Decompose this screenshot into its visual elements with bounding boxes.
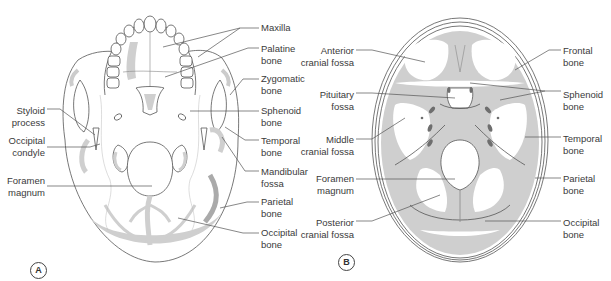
label-line: Occipital <box>9 135 45 147</box>
label-line: Pituitary <box>320 89 354 101</box>
label-line: bone <box>261 117 301 129</box>
label-posterior-fossa: Posteriorcranial fossa <box>301 217 354 240</box>
label-line: Foramen <box>7 175 45 187</box>
label-line: Mandibular <box>261 166 308 178</box>
label-pituitary: Pituitaryfossa <box>320 89 354 112</box>
label-line: Parietal <box>563 173 595 185</box>
label-parietal-b: Parietalbone <box>563 173 595 196</box>
label-frontal: Frontalbone <box>563 45 593 68</box>
label-line: Temporal <box>563 133 602 145</box>
label-line: bone <box>261 239 297 251</box>
label-temporal-b: Temporalbone <box>563 133 602 156</box>
panel-b-badge: B <box>338 254 355 271</box>
label-line: bone <box>261 208 293 220</box>
label-line: condyle <box>9 147 45 159</box>
label-line: Sphenoid <box>563 89 603 101</box>
label-foramen-b: Foramenmagnum <box>316 173 354 196</box>
panel-b-skull <box>372 18 548 262</box>
label-line: bone <box>261 55 295 67</box>
label-line: cranial fossa <box>301 146 354 158</box>
label-line: Occipital <box>563 217 599 229</box>
label-line: bone <box>261 147 300 159</box>
label-temporal: Temporalbone <box>261 135 300 158</box>
label-anterior-fossa: Anteriorcranial fossa <box>301 45 354 68</box>
label-line: Posterior <box>301 217 354 229</box>
label-occipital-b: Occipitalbone <box>563 217 599 240</box>
label-zygomatic: Zygomaticbone <box>261 73 305 96</box>
label-middle-fossa: Middlecranial fossa <box>301 134 354 157</box>
label-occipital: Occipitalbone <box>261 227 297 250</box>
label-line: cranial fossa <box>301 57 354 69</box>
label-foramen: Foramenmagnum <box>7 175 45 198</box>
label-sphenoid: Sphenoidbone <box>261 105 301 128</box>
label-line: bone <box>563 145 602 157</box>
label-line: bone <box>563 229 599 241</box>
label-styloid: Styloidprocess <box>12 105 45 128</box>
label-line: Occipital <box>261 227 297 239</box>
label-line: Styloid <box>12 105 45 117</box>
label-line: Frontal <box>563 45 593 57</box>
label-sphenoid-b: Sphenoidbone <box>563 89 603 112</box>
foramen-magnum-a <box>127 142 172 196</box>
label-line: Middle <box>301 134 354 146</box>
label-line: bone <box>563 101 603 113</box>
label-line: Palatine <box>261 43 295 55</box>
label-parietal: Parietalbone <box>261 196 293 219</box>
label-line: cranial fossa <box>301 229 354 241</box>
label-palatine: Palatinebone <box>261 43 295 66</box>
label-line: fossa <box>261 178 308 190</box>
label-line: Zygomatic <box>261 73 305 85</box>
label-line: fossa <box>320 101 354 113</box>
label-occ-condyle: Occipitalcondyle <box>9 135 45 158</box>
label-line: magnum <box>316 185 354 197</box>
label-line: Anterior <box>301 45 354 57</box>
skull-figure: MaxillaPalatineboneZygomaticboneSphenoid… <box>0 0 611 281</box>
label-maxilla: Maxilla <box>261 22 291 34</box>
label-mandibular: Mandibularfossa <box>261 166 308 189</box>
label-line: bone <box>261 85 305 97</box>
panel-a-badge: A <box>30 262 47 279</box>
panel-a-skull <box>63 16 239 262</box>
label-line: Temporal <box>261 135 300 147</box>
label-line: Foramen <box>316 173 354 185</box>
label-line: magnum <box>7 187 45 199</box>
label-line: Sphenoid <box>261 105 301 117</box>
label-line: Maxilla <box>261 22 291 34</box>
label-line: process <box>12 117 45 129</box>
label-line: Parietal <box>261 196 293 208</box>
label-line: bone <box>563 57 593 69</box>
label-line: bone <box>563 185 595 197</box>
